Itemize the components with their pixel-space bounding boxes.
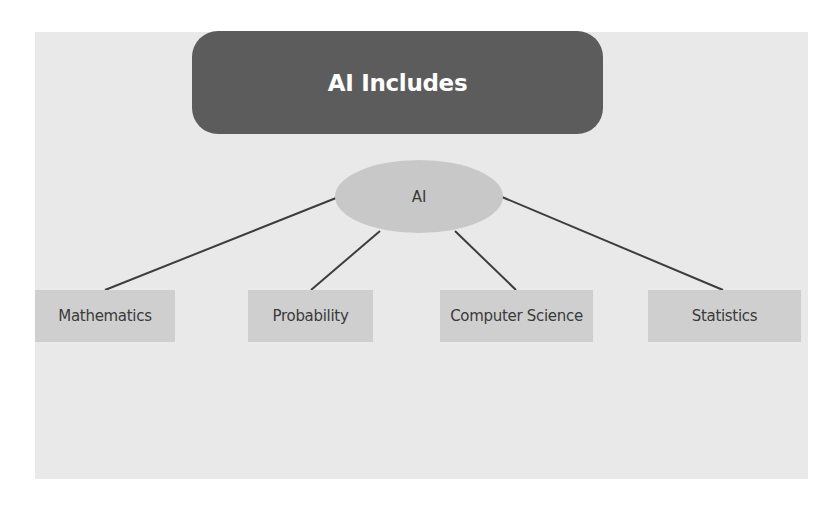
leaf-node-probability: Probability [248, 290, 373, 342]
leaf-node-mathematics: Mathematics [35, 290, 175, 342]
leaf-node-computer-science: Computer Science [440, 290, 593, 342]
leaf-node-statistics: Statistics [648, 290, 801, 342]
connector-lines [0, 0, 839, 505]
root-node-label: AI [412, 188, 427, 206]
connector-computer-science [455, 231, 516, 290]
leaf-node-label: Statistics [692, 307, 758, 325]
leaf-node-label: Mathematics [58, 307, 151, 325]
connector-statistics [502, 197, 723, 290]
leaf-node-label: Computer Science [450, 307, 583, 325]
connector-mathematics [105, 198, 336, 290]
leaf-node-label: Probability [273, 307, 349, 325]
root-node-ai: AI [335, 160, 503, 233]
connector-probability [311, 231, 380, 290]
